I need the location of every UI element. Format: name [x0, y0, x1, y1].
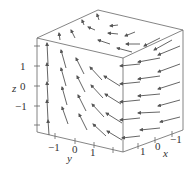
cube-box [37, 10, 183, 152]
z-tick-label: 0 [20, 80, 26, 92]
vector-arrows [47, 14, 180, 140]
y-tick-label: 0 [72, 143, 78, 155]
x-tick-label: 0 [155, 140, 161, 152]
z-tick-label: 1 [20, 60, 26, 72]
x-tick-label: −1 [170, 133, 182, 145]
z-tick-label: −1 [15, 100, 27, 112]
y-axis-label: y [66, 152, 72, 164]
y-tick-label: 1 [90, 146, 96, 158]
y-tick-label: −1 [48, 141, 60, 153]
vector-field-plot: 1 0 −1 z −1 0 1 y 1 0 −1 x [0, 0, 193, 170]
x-tick-label: 1 [140, 145, 146, 157]
z-axis-label: z [11, 82, 17, 94]
x-axis-label: x [162, 147, 168, 159]
plot-canvas: 1 0 −1 z −1 0 1 y 1 0 −1 x [0, 0, 193, 170]
